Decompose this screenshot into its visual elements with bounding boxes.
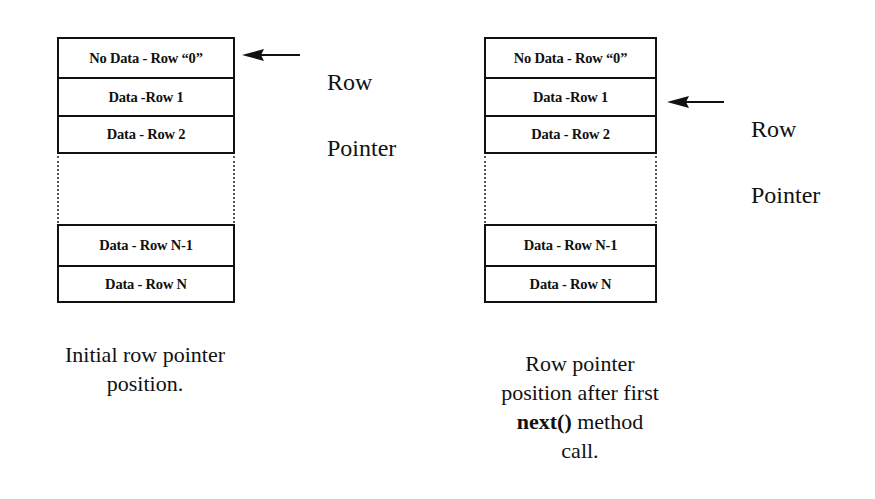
- caption-line: Row pointer: [455, 349, 705, 378]
- row-pointer-arrow-icon: [667, 96, 724, 108]
- rows-top-group: No Data - Row “0” Data -Row 1 Data - Row…: [484, 37, 657, 154]
- row-0-cell: No Data - Row “0”: [59, 39, 233, 79]
- rows-top-group: No Data - Row “0” Data -Row 1 Data - Row…: [57, 37, 235, 154]
- ellipsis-gap: [57, 156, 235, 223]
- result-set-stack-initial: No Data - Row “0” Data -Row 1 Data - Row…: [57, 37, 235, 303]
- row-pointer-label-line1: Row: [751, 113, 820, 146]
- result-set-stack-after-next: No Data - Row “0” Data -Row 1 Data - Row…: [484, 37, 657, 303]
- row-n-cell: Data - Row N: [59, 267, 233, 301]
- caption-line: position after first: [455, 378, 705, 407]
- caption-line: call.: [455, 436, 705, 465]
- row-1-cell: Data -Row 1: [486, 79, 655, 117]
- row-2-cell: Data - Row 2: [59, 117, 233, 152]
- row-pointer-label-line2: Pointer: [327, 132, 396, 165]
- row-pointer-arrow-icon: [242, 49, 300, 61]
- ellipsis-gap: [484, 156, 657, 223]
- row-pointer-label-line1: Row: [327, 66, 396, 99]
- rows-bottom-group: Data - Row N-1 Data - Row N: [57, 224, 235, 303]
- caption-initial: Initial row pointer position.: [20, 340, 270, 398]
- row-n-minus-1-cell: Data - Row N-1: [486, 226, 655, 267]
- row-pointer-label: Row Pointer: [751, 80, 820, 245]
- row-0-cell: No Data - Row “0”: [486, 39, 655, 79]
- row-2-cell: Data - Row 2: [486, 117, 655, 152]
- row-n-cell: Data - Row N: [486, 267, 655, 301]
- caption-line: next() method: [455, 407, 705, 436]
- row-n-minus-1-cell: Data - Row N-1: [59, 226, 233, 267]
- caption-line: position.: [20, 369, 270, 398]
- rows-bottom-group: Data - Row N-1 Data - Row N: [484, 224, 657, 303]
- caption-line-rest: method: [572, 409, 644, 434]
- caption-line: Initial row pointer: [20, 340, 270, 369]
- row-pointer-label: Row Pointer: [327, 33, 396, 198]
- method-name-code: next(): [517, 409, 572, 434]
- row-1-cell: Data -Row 1: [59, 79, 233, 117]
- caption-after-next: Row pointer position after first next() …: [455, 349, 705, 465]
- row-pointer-label-line2: Pointer: [751, 179, 820, 212]
